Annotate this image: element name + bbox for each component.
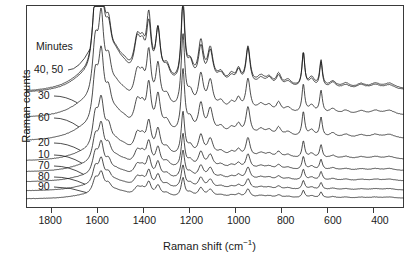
series-label: 40, 50 <box>34 63 63 75</box>
y-axis-label: Raman counts <box>20 36 32 176</box>
x-tick-label: 1600 <box>74 214 120 226</box>
x-axis-label-main: Raman shift (cm <box>163 240 243 252</box>
series-label: 60 <box>38 111 50 123</box>
x-tick-label: 1800 <box>27 214 73 226</box>
x-axis-label-tail: ) <box>252 240 256 252</box>
x-tick-label: 1000 <box>216 214 262 226</box>
x-tick-label: 1200 <box>168 214 214 226</box>
x-axis-label: Raman shift (cm−1) <box>0 238 419 252</box>
plot-frame <box>27 6 404 208</box>
raman-spectra-figure: Raman counts Raman shift (cm−1) 18001600… <box>0 0 419 262</box>
x-tick-label: 600 <box>310 214 356 226</box>
x-tick-label: 400 <box>357 214 403 226</box>
x-axis-label-exponent: −1 <box>243 238 252 247</box>
series-label: 30 <box>38 89 50 101</box>
series-label: 90 <box>38 180 50 192</box>
series-label-header: Minutes <box>36 40 73 52</box>
x-axis-ticks <box>52 208 374 213</box>
series-label: 20 <box>38 136 50 148</box>
x-tick-label: 1400 <box>121 214 167 226</box>
x-tick-label: 800 <box>263 214 309 226</box>
